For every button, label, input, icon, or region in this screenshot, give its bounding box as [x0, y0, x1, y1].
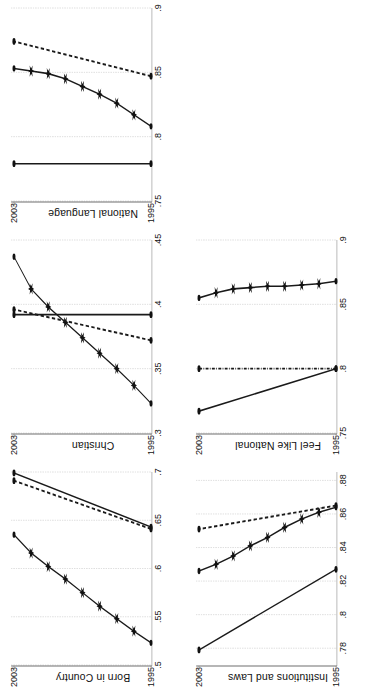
data-point-star-marker	[62, 317, 68, 328]
data-point-star-marker	[97, 348, 103, 359]
value-tick-label: .45	[153, 234, 163, 247]
data-point-star-marker	[264, 281, 270, 292]
panel-institutions-and-laws: Institutions and Laws.78.8.82.84.86.8819…	[185, 464, 370, 696]
small-multiples-figure: Born in Country.5.55.6.65.719952003Chris…	[0, 0, 370, 696]
empty-panel	[185, 0, 370, 232]
data-point-marker	[150, 640, 153, 646]
data-point-marker	[150, 123, 153, 129]
data-point-marker	[198, 568, 201, 574]
rotated-figure-frame: Born in Country.5.55.6.65.719952003Chris…	[0, 0, 370, 696]
year-axis-ticks-born-in-country: 19952003	[14, 665, 151, 696]
data-point-star-marker	[131, 626, 137, 637]
endpoint-marker	[197, 526, 200, 533]
endpoint-marker	[334, 566, 337, 573]
plot-area-institutions-and-laws	[199, 472, 336, 665]
endpoint-marker	[149, 526, 152, 533]
data-point-star-marker	[264, 532, 270, 543]
year-axis-ticks-christian: 19952003	[14, 433, 151, 464]
plot-svg-christian	[14, 240, 151, 433]
value-tick-label: .35	[153, 362, 163, 375]
data-point-marker	[13, 65, 16, 71]
panel-born-in-country: Born in Country.5.55.6.65.719952003	[0, 464, 185, 696]
series-line-solid-endpoints	[14, 473, 151, 527]
data-point-star-marker	[97, 89, 103, 100]
data-point-star-marker	[131, 109, 137, 120]
series-line-star-series	[14, 68, 151, 126]
series-line-solid-endpoints	[199, 569, 336, 650]
value-tick-label: .8	[338, 611, 348, 619]
plot-area-feel-like-national	[199, 240, 336, 433]
endpoint-marker	[334, 365, 337, 372]
endpoint-marker	[12, 470, 15, 477]
data-point-star-marker	[299, 279, 305, 290]
value-axis-ticks-national-language: .75.8.85.9	[153, 8, 169, 201]
endpoint-marker	[197, 647, 200, 654]
data-point-star-marker	[114, 98, 120, 109]
data-point-star-marker	[79, 587, 85, 598]
panel-christian: Christian.3.35.4.4519952003	[0, 232, 185, 464]
endpoint-marker	[149, 337, 152, 344]
value-tick-label: .9	[153, 4, 163, 12]
data-point-star-marker	[79, 81, 85, 92]
value-tick-label: .8	[338, 365, 348, 373]
value-tick-label: .6	[153, 565, 163, 573]
data-point-star-marker	[28, 547, 34, 558]
value-tick-label: .78	[338, 642, 348, 655]
value-tick-label: .82	[338, 575, 348, 588]
data-point-star-marker	[62, 73, 68, 84]
value-axis-ticks-feel-like-national: .75.8.85.9	[338, 240, 354, 433]
data-point-star-marker	[299, 513, 305, 524]
endpoint-marker	[149, 311, 152, 318]
data-point-star-marker	[230, 550, 236, 561]
data-point-star-marker	[282, 281, 288, 292]
data-point-star-marker	[114, 363, 120, 374]
data-point-star-marker	[79, 332, 85, 343]
data-point-star-marker	[247, 540, 253, 551]
value-tick-label: .88	[338, 474, 348, 487]
endpoint-marker	[12, 306, 15, 313]
data-point-star-marker	[230, 283, 236, 294]
data-point-star-marker	[45, 561, 51, 572]
data-point-marker	[13, 254, 16, 260]
plot-area-national-language	[14, 8, 151, 201]
plot-area-born-in-country	[14, 472, 151, 665]
data-point-marker	[335, 278, 338, 284]
value-tick-label: .9	[338, 236, 348, 244]
plot-area-christian	[14, 240, 151, 433]
endpoint-marker	[334, 502, 337, 509]
value-tick-label: .85	[153, 66, 163, 79]
plot-svg-national-language	[14, 8, 151, 201]
data-point-star-marker	[45, 68, 51, 79]
data-point-star-marker	[28, 65, 34, 76]
value-tick-label: .4	[153, 301, 163, 309]
endpoint-marker	[149, 160, 152, 167]
value-tick-label: .7	[153, 468, 163, 476]
plot-svg-institutions-and-laws	[199, 472, 336, 665]
data-point-star-marker	[316, 278, 322, 289]
value-axis-ticks-born-in-country: .5.55.6.65.7	[153, 472, 169, 665]
endpoint-marker	[197, 365, 200, 372]
endpoint-marker	[12, 477, 15, 484]
data-point-star-marker	[282, 522, 288, 533]
value-tick-label: .55	[153, 610, 163, 623]
data-point-star-marker	[131, 380, 137, 391]
panel-grid: Born in Country.5.55.6.65.719952003Chris…	[0, 0, 370, 696]
panel-feel-like-national: Feel Like National.75.8.85.919952003	[185, 232, 370, 464]
value-tick-label: .85	[338, 298, 348, 311]
value-tick-label: .8	[153, 133, 163, 141]
value-axis-ticks-christian: .3.35.4.45	[153, 240, 169, 433]
endpoint-marker	[149, 73, 152, 80]
year-axis-ticks-institutions-and-laws: 19952003	[199, 665, 336, 696]
series-line-star-series	[14, 535, 151, 643]
endpoint-marker	[197, 408, 200, 415]
data-point-star-marker	[247, 282, 253, 293]
value-tick-label: .86	[338, 508, 348, 521]
plot-svg-feel-like-national	[199, 240, 336, 433]
series-line-dashed-endpoints	[199, 506, 336, 529]
year-axis-ticks-feel-like-national: 19952003	[199, 433, 336, 464]
value-tick-label: .84	[338, 541, 348, 554]
data-point-star-marker	[114, 613, 120, 624]
data-point-star-marker	[62, 573, 68, 584]
series-line-star-series	[199, 281, 336, 298]
endpoint-marker	[12, 38, 15, 45]
